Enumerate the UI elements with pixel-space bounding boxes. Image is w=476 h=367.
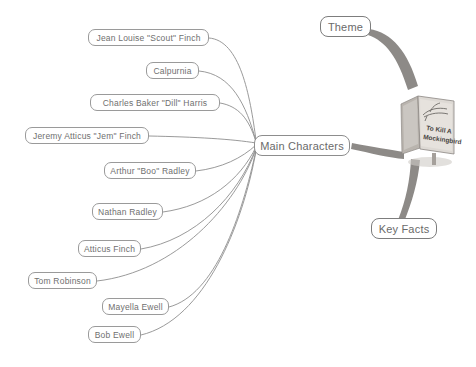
node-character-label: Atticus Finch [84, 244, 135, 254]
node-character-atticus-finch[interactable]: Atticus Finch [78, 240, 141, 257]
node-character-nathan-radley[interactable]: Nathan Radley [92, 203, 163, 220]
node-character-bob-ewell[interactable]: Bob Ewell [88, 326, 141, 343]
node-character-label: Jean Louise "Scout" Finch [96, 33, 200, 43]
branch-connectors [0, 0, 476, 367]
hub-node-label: Main Characters [260, 140, 344, 152]
node-character-label: Calpurnia [153, 66, 191, 76]
node-character-label: Nathan Radley [98, 207, 157, 217]
node-character-label: Arthur "Boo" Radley [110, 166, 189, 176]
book-stand [432, 153, 436, 165]
node-character-tom-robinson[interactable]: Tom Robinson [28, 272, 97, 289]
node-character-label: Charles Baker "Dill" Harris [103, 98, 207, 108]
mindmap-canvas: To Kill A Mockingbird Main Characters Th… [0, 0, 476, 367]
node-character-label: Tom Robinson [34, 276, 91, 286]
node-character-label: Bob Ewell [95, 330, 135, 340]
branch-theme [368, 29, 418, 90]
book-cover-image: To Kill A Mockingbird [396, 82, 462, 168]
book-left-page [401, 96, 420, 154]
book-front-cover: To Kill A Mockingbird [418, 96, 462, 154]
node-key-facts[interactable]: Key Facts [371, 218, 437, 239]
branch-keyfacts [398, 159, 420, 222]
node-character-label: Jeremy Atticus "Jem" Finch [33, 131, 141, 141]
node-character-calpurnia[interactable]: Calpurnia [146, 62, 199, 79]
node-theme-label: Theme [328, 21, 363, 33]
node-character-jem[interactable]: Jeremy Atticus "Jem" Finch [25, 127, 149, 144]
node-character-label: Mayella Ewell [108, 302, 163, 312]
node-character-mayella-ewell[interactable]: Mayella Ewell [102, 298, 169, 315]
node-character-scout[interactable]: Jean Louise "Scout" Finch [88, 29, 209, 46]
node-character-boo-radley[interactable]: Arthur "Boo" Radley [104, 162, 196, 179]
node-key-facts-label: Key Facts [379, 223, 430, 235]
hub-node-main-characters[interactable]: Main Characters [254, 135, 350, 156]
node-theme[interactable]: Theme [320, 16, 371, 37]
book-shadow [408, 157, 452, 167]
node-character-dill[interactable]: Charles Baker "Dill" Harris [90, 94, 220, 111]
branch-to-jem [149, 136, 256, 143]
